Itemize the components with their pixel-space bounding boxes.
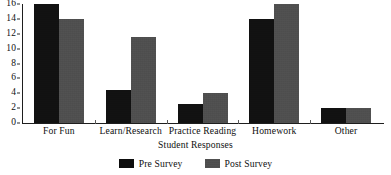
- y-tick-mark: [17, 4, 20, 5]
- x-axis-title: Student Responses: [0, 139, 391, 151]
- chart-legend: Pre SurveyPost Survey: [0, 156, 391, 170]
- x-axis-line: [22, 123, 384, 124]
- x-tick-label: Homework: [238, 125, 310, 137]
- bar-groups: [23, 4, 382, 123]
- y-tick-label: 16: [6, 0, 16, 9]
- legend-swatch-icon: [205, 159, 220, 168]
- bar-group: [249, 4, 299, 123]
- y-tick-mark: [17, 78, 20, 79]
- y-tick-label: 14: [6, 14, 16, 24]
- bar-group: [178, 4, 228, 123]
- y-tick-mark: [17, 93, 20, 94]
- bar-post-survey: [346, 108, 371, 123]
- x-tick-label: Other: [310, 125, 382, 137]
- y-tick-mark: [17, 33, 20, 34]
- y-tick-mark: [17, 48, 20, 49]
- legend-label: Post Survey: [225, 158, 273, 169]
- legend-entry[interactable]: Post Survey: [205, 158, 273, 169]
- y-tick-label: 10: [6, 44, 16, 54]
- y-tick-label: 6: [11, 74, 16, 84]
- bar-chart: 0246810121416 For FunLearn/ResearchPract…: [0, 0, 391, 175]
- x-group-tick: [167, 120, 168, 124]
- bar-pre-survey: [178, 104, 203, 123]
- bar-post-survey: [274, 4, 299, 123]
- x-group-tick: [238, 120, 239, 124]
- legend-label: Pre Survey: [139, 158, 183, 169]
- bar-pre-survey: [106, 90, 131, 123]
- bar-group: [321, 4, 371, 123]
- legend-swatch-icon: [119, 159, 134, 168]
- bar-pre-survey: [249, 19, 274, 123]
- y-tick-label: 2: [11, 103, 16, 113]
- y-tick-label: 4: [11, 89, 16, 99]
- y-tick-mark: [17, 108, 20, 109]
- bar-group: [34, 4, 84, 123]
- bar-group: [106, 4, 156, 123]
- bar-post-survey: [59, 19, 84, 123]
- y-tick-label: 12: [6, 29, 16, 39]
- x-axis-category-labels: For FunLearn/ResearchPractice ReadingHom…: [23, 125, 382, 139]
- bar-pre-survey: [34, 4, 59, 123]
- x-tick-label: Learn/Research: [95, 125, 167, 137]
- bar-pre-survey: [321, 108, 346, 123]
- legend-entry[interactable]: Pre Survey: [119, 158, 183, 169]
- x-tick-label: For Fun: [23, 125, 95, 137]
- x-group-tick: [95, 120, 96, 124]
- y-tick-mark: [17, 18, 20, 19]
- y-tick-label: 8: [11, 59, 16, 69]
- y-axis: 0246810121416: [0, 4, 20, 123]
- x-group-tick: [310, 120, 311, 124]
- y-tick-mark: [17, 123, 20, 124]
- bar-post-survey: [203, 93, 228, 123]
- bar-post-survey: [131, 37, 156, 123]
- y-tick-mark: [17, 63, 20, 64]
- x-tick-label: Practice Reading: [167, 125, 239, 137]
- y-tick-label: 0: [11, 118, 16, 128]
